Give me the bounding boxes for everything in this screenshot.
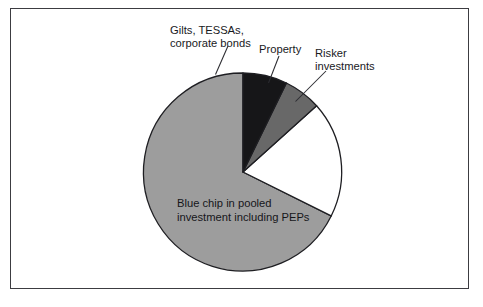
pie-label-gilts-line2: corporate bonds	[170, 37, 251, 49]
pie-label-gilts-line1: Gilts, TESSAs,	[170, 24, 244, 36]
pie-label-property: Property	[259, 43, 302, 55]
figure-container: Gilts, TESSAs, corporate bonds Property …	[0, 0, 483, 307]
leader-line-gilts	[216, 46, 229, 75]
pie-label-risker-line2: investments	[315, 60, 375, 72]
leader-line-risker	[296, 71, 327, 102]
pie-label-risker-line1: Risker	[315, 47, 347, 59]
pie-label-blue-chip-line2: investment including PEPs	[177, 211, 310, 223]
pie-chart: Gilts, TESSAs, corporate bonds Property …	[0, 0, 483, 307]
pie-label-blue-chip-line1: Blue chip in pooled	[177, 197, 272, 209]
